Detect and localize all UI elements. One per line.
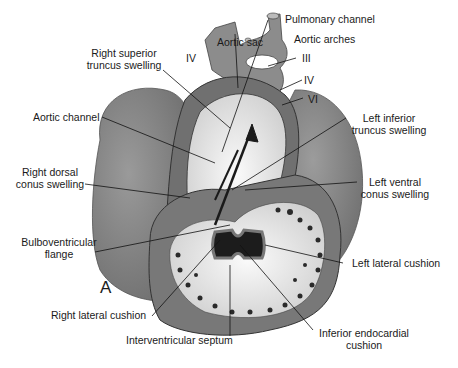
label-arch-iv-left: IV	[304, 74, 314, 86]
label-inferior-endocardial-cushion: Inferior endocardial cushion	[310, 327, 418, 351]
label-aortic-sac: Aortic sac	[217, 36, 263, 48]
label-right-dorsal-conus-swelling: Right dorsal conus swelling	[14, 166, 86, 190]
label-arch-iv-right: IV	[186, 52, 196, 64]
label-right-superior-truncus-swelling: Right superior truncus swelling	[84, 47, 164, 71]
label-interventricular-septum: Interventricular septum	[126, 334, 233, 346]
arch-opening	[246, 55, 278, 69]
panel-letter: A	[100, 278, 111, 298]
label-right-lateral-cushion: Right lateral cushion	[51, 309, 146, 321]
label-left-inferior-truncus-swelling: Left inferior truncus swelling	[347, 112, 431, 136]
label-left-lateral-cushion: Left lateral cushion	[352, 257, 440, 269]
label-pulmonary-channel: Pulmonary channel	[285, 13, 375, 25]
label-aortic-arches: Aortic arches	[294, 33, 355, 45]
label-aortic-channel: Aortic channel	[33, 111, 100, 123]
embryonic-heart-diagram: Pulmonary channel Aortic sac Aortic arch…	[0, 0, 458, 368]
label-bulboventricular-flange: Bulboventricular flange	[18, 236, 100, 260]
label-arch-iii: III	[302, 52, 311, 64]
label-arch-vi: VI	[308, 93, 318, 105]
label-left-ventral-conus-swelling: Left ventral conus swelling	[357, 176, 433, 200]
